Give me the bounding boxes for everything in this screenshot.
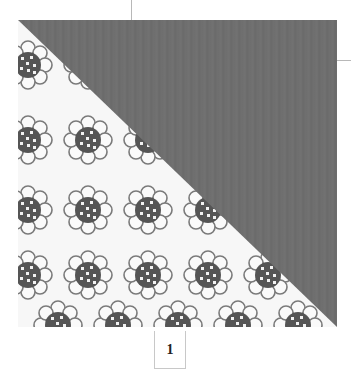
crop-mark-horizontal: [335, 60, 351, 61]
page-number: 1: [154, 331, 186, 369]
crop-mark-vertical: [131, 0, 132, 22]
quilt-block-image: [18, 20, 337, 327]
